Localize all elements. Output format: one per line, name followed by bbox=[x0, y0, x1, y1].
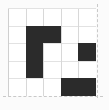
grid-cell-filled bbox=[26, 43, 44, 61]
axis-left-spine bbox=[8, 8, 9, 96]
grid-cell-filled bbox=[26, 61, 44, 79]
axis-top-spine bbox=[8, 8, 96, 9]
grid-cell-filled bbox=[61, 78, 79, 96]
grid-plot-area bbox=[8, 8, 96, 96]
grid-cell-filled bbox=[26, 26, 44, 44]
grid-cell-filled bbox=[78, 43, 96, 61]
figure-container bbox=[0, 0, 109, 110]
grid-cell-filled bbox=[78, 78, 96, 96]
boundary-line-bottom bbox=[3, 96, 103, 97]
grid-cell-filled bbox=[43, 26, 61, 44]
boundary-line-right bbox=[97, 4, 98, 98]
